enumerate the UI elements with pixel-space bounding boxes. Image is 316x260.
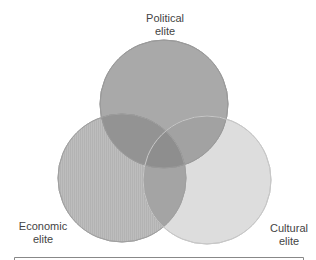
cultural-label-line1: Cultural — [270, 222, 308, 235]
political-label-line2: elite — [146, 25, 184, 38]
cultural-label-line2: elite — [270, 235, 308, 248]
economic-label-line2: elite — [19, 233, 67, 246]
economic-elite-label: Economic elite — [19, 220, 67, 246]
political-elite-label: Political elite — [146, 12, 184, 38]
cultural-elite-label: Cultural elite — [270, 222, 308, 248]
economic-label-line1: Economic — [19, 220, 67, 233]
political-label-line1: Political — [146, 12, 184, 25]
